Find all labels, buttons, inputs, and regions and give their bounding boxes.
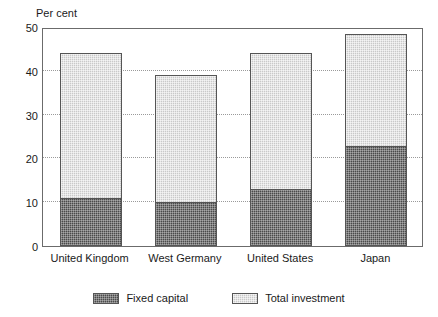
x-tick-label: Japan xyxy=(328,252,423,265)
bar-chart-figure: Per cent 01020304050 United KingdomWest … xyxy=(0,0,438,317)
plot-area xyxy=(42,28,423,247)
legend-item: Total investment xyxy=(232,292,344,305)
bar-group xyxy=(250,27,312,246)
y-tick-label: 0 xyxy=(4,242,38,253)
light-hatch-swatch xyxy=(232,293,258,304)
bar-segment-fixed-capital xyxy=(60,198,122,246)
y-axis-title: Per cent xyxy=(36,7,77,20)
bar-segment-fixed-capital xyxy=(155,202,217,246)
chart-legend: Fixed capitalTotal investment xyxy=(0,288,438,308)
bar-segment-fixed-capital xyxy=(345,146,407,246)
y-tick-label: 20 xyxy=(4,154,38,165)
y-tick-label: 10 xyxy=(4,198,38,209)
x-tick-label: United States xyxy=(233,252,328,265)
bar-series-layer xyxy=(43,29,422,246)
bar-group xyxy=(60,27,122,246)
y-axis-tick-labels: 01020304050 xyxy=(0,28,38,247)
legend-label: Total investment xyxy=(265,292,344,305)
legend-label: Fixed capital xyxy=(126,292,188,305)
x-axis-category-labels: United KingdomWest GermanyUnited StatesJ… xyxy=(42,252,423,268)
legend-item: Fixed capital xyxy=(93,292,188,305)
dark-hatch-swatch xyxy=(93,293,119,304)
x-tick-label: United Kingdom xyxy=(42,252,137,265)
bar-group xyxy=(155,27,217,246)
y-tick-label: 50 xyxy=(4,23,38,34)
bar-segment-fixed-capital xyxy=(250,189,312,246)
y-tick-label: 30 xyxy=(4,111,38,122)
x-tick-label: West Germany xyxy=(137,252,232,265)
y-tick-label: 40 xyxy=(4,67,38,78)
bar-group xyxy=(345,27,407,246)
